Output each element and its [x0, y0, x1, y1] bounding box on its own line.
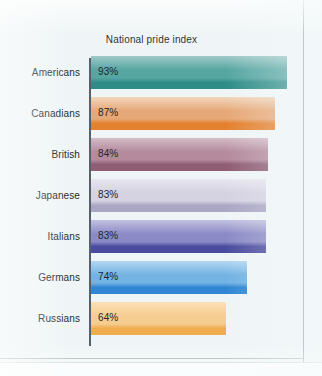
bar-row: Japanese83%: [0, 179, 303, 212]
bar-category-label: British: [0, 138, 80, 171]
bar: 83%: [91, 220, 266, 253]
bar-fill: [91, 56, 287, 89]
bar-value-label: 84%: [98, 138, 118, 171]
bar-row: Italians83%: [0, 220, 303, 253]
frame-bottom-rule: [0, 358, 304, 359]
frame-right-rule: [303, 0, 304, 362]
bar-category-label: Japanese: [0, 179, 80, 212]
bar-value-label: 64%: [98, 302, 118, 335]
frame-outer-margin: [0, 363, 322, 376]
bar-value-label: 83%: [98, 179, 118, 212]
bar-fill: [91, 97, 275, 130]
bar-row: Germans74%: [0, 261, 303, 294]
bar-category-label: Russians: [0, 302, 80, 335]
bar-category-label: Italians: [0, 220, 80, 253]
bar-value-label: 87%: [98, 97, 118, 130]
bar-row: Russians64%: [0, 302, 303, 335]
bar-category-label: Americans: [0, 56, 80, 89]
bar: 84%: [91, 138, 268, 171]
bar: 93%: [91, 56, 287, 89]
bar-value-label: 83%: [98, 220, 118, 253]
bar: 83%: [91, 179, 266, 212]
bar: 74%: [91, 261, 247, 294]
bar-row: Americans93%: [0, 56, 303, 89]
bar-value-label: 74%: [98, 261, 118, 294]
chart-title: National pride index: [0, 34, 303, 45]
bar-row: British84%: [0, 138, 303, 171]
bar-row: Canadians87%: [0, 97, 303, 130]
bar: 87%: [91, 97, 275, 130]
bar-value-label: 93%: [98, 56, 118, 89]
plot-area: Americans93%Canadians87%British84%Japane…: [0, 56, 303, 352]
bar-category-label: Germans: [0, 261, 80, 294]
bar: 64%: [91, 302, 226, 335]
bar-category-label: Canadians: [0, 97, 80, 130]
chart-screenshot: National pride index Americans93%Canadia…: [0, 0, 322, 376]
